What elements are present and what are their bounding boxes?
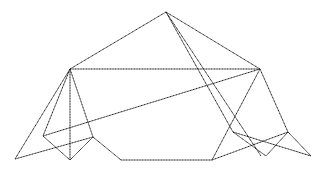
edge-G-H <box>93 137 121 160</box>
edge-A-J <box>166 12 233 132</box>
edge-A-L <box>166 12 261 156</box>
edge-B-G <box>70 69 93 137</box>
edge-B-E <box>43 69 70 136</box>
wireframe-diagram <box>0 0 325 171</box>
edge-E-C <box>43 69 260 136</box>
edge-A-B <box>70 12 166 69</box>
edge-C-K <box>260 69 288 132</box>
edge-J-M <box>233 132 266 156</box>
edge-E-F <box>43 136 70 160</box>
diagram-canvas <box>0 0 325 171</box>
edge-A-C <box>166 12 260 69</box>
edge-I-K <box>212 132 288 160</box>
